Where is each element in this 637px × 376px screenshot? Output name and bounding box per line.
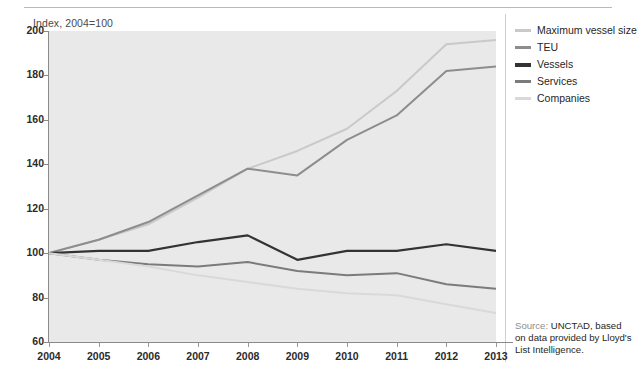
series-line: [49, 253, 496, 289]
y-tick-mark: [44, 31, 49, 32]
plot-area: [49, 31, 496, 342]
x-tick-mark: [347, 343, 348, 347]
y-axis-line: [48, 31, 49, 343]
x-tick-label: 2006: [137, 350, 160, 362]
x-tick-label: 2009: [286, 350, 309, 362]
x-tick-mark: [49, 343, 50, 347]
y-tick-label: 200: [0, 24, 44, 36]
legend-item-label: TEU: [537, 41, 558, 54]
y-tick-mark: [44, 209, 49, 210]
x-tick-label: 2005: [87, 350, 110, 362]
x-axis-line: [48, 342, 513, 343]
x-tick-mark: [297, 343, 298, 347]
x-tick-mark: [198, 343, 199, 347]
x-tick-mark: [248, 343, 249, 347]
x-tick-label: 2004: [37, 350, 60, 362]
series-lines: [49, 31, 496, 342]
y-tick-label: 80: [0, 291, 44, 303]
legend-color-swatch: [515, 29, 531, 32]
x-tick-label: 2013: [484, 350, 507, 362]
y-axis-title: Index, 2004=100: [33, 17, 113, 29]
source-label: Source:: [515, 320, 548, 331]
x-tick-mark: [496, 343, 497, 347]
x-tick-mark: [148, 343, 149, 347]
y-tick-mark: [44, 75, 49, 76]
chart-legend: Maximum vessel sizeTEUVesselsServicesCom…: [515, 24, 633, 109]
legend-item[interactable]: Services: [515, 75, 633, 88]
y-tick-label: 60: [0, 335, 44, 347]
legend-divider: [505, 14, 506, 362]
x-tick-label: 2012: [435, 350, 458, 362]
series-line: [49, 40, 496, 253]
legend-item[interactable]: Vessels: [515, 58, 633, 71]
y-tick-label: 120: [0, 202, 44, 214]
legend-color-swatch: [515, 46, 531, 49]
y-tick-mark: [44, 120, 49, 121]
legend-item-label: Companies: [537, 92, 590, 105]
legend-item[interactable]: Maximum vessel size: [515, 24, 633, 37]
source-note: Source: UNCTAD, based on data provided b…: [515, 320, 633, 357]
legend-color-swatch: [515, 63, 531, 67]
y-tick-mark: [44, 298, 49, 299]
legend-item[interactable]: TEU: [515, 41, 633, 54]
x-tick-label: 2011: [385, 350, 408, 362]
y-tick-label: 180: [0, 68, 44, 80]
x-tick-label: 2007: [186, 350, 209, 362]
series-line: [49, 235, 496, 259]
top-divider: [24, 7, 612, 8]
y-tick-mark: [44, 164, 49, 165]
legend-item-label: Services: [537, 75, 577, 88]
y-tick-label: 160: [0, 113, 44, 125]
y-tick-label: 140: [0, 157, 44, 169]
y-tick-mark: [44, 253, 49, 254]
x-tick-label: 2010: [335, 350, 358, 362]
legend-item-label: Maximum vessel size: [537, 24, 637, 37]
series-line: [49, 253, 496, 313]
y-tick-label: 100: [0, 246, 44, 258]
x-tick-label: 2008: [236, 350, 259, 362]
x-tick-mark: [99, 343, 100, 347]
legend-color-swatch: [515, 97, 531, 100]
x-tick-mark: [446, 343, 447, 347]
legend-item[interactable]: Companies: [515, 92, 633, 105]
legend-color-swatch: [515, 80, 531, 83]
legend-item-label: Vessels: [537, 58, 573, 71]
x-tick-mark: [397, 343, 398, 347]
